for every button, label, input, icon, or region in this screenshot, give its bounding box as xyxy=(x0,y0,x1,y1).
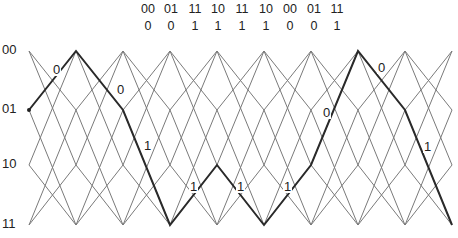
path-bit-label: 1 xyxy=(189,180,198,193)
state-label-10: 10 xyxy=(2,157,16,170)
header-code: 10 xyxy=(254,3,278,16)
header-code: 01 xyxy=(302,3,326,16)
header-code: 10 xyxy=(206,3,230,16)
header-bit: 0 xyxy=(278,20,302,33)
path-bit-label: 0 xyxy=(322,106,331,119)
header-bit: 1 xyxy=(230,20,254,33)
header-code: 11 xyxy=(325,3,349,16)
state-label-11: 11 xyxy=(2,217,16,230)
state-label-01: 01 xyxy=(2,102,16,115)
start-node-dot xyxy=(27,108,31,112)
header-code: 00 xyxy=(136,3,160,16)
path-bit-label: 0 xyxy=(116,83,125,96)
path-bit-label: 1 xyxy=(236,180,245,193)
header-bit: 0 xyxy=(302,20,326,33)
path-bit-label: 0 xyxy=(52,63,61,76)
header-bit: 0 xyxy=(159,20,183,33)
header-bit: 0 xyxy=(136,20,160,33)
header-code: 00 xyxy=(278,3,302,16)
header-bit: 1 xyxy=(183,20,207,33)
path-bit-label: 1 xyxy=(143,139,152,152)
path-bit-label: 0 xyxy=(377,61,386,74)
header-bit: 1 xyxy=(206,20,230,33)
state-label-00: 00 xyxy=(2,43,16,56)
header-bit: 1 xyxy=(325,20,349,33)
survivor-path xyxy=(29,51,452,225)
trellis-edges xyxy=(29,51,452,225)
header-code: 11 xyxy=(183,3,207,16)
trellis-diagram xyxy=(0,0,458,238)
header-bit: 1 xyxy=(254,20,278,33)
path-bit-label: 1 xyxy=(283,180,292,193)
header-code: 01 xyxy=(159,3,183,16)
path-bit-label: 1 xyxy=(423,140,432,153)
survivor-path-line xyxy=(29,51,452,225)
header-code: 11 xyxy=(230,3,254,16)
